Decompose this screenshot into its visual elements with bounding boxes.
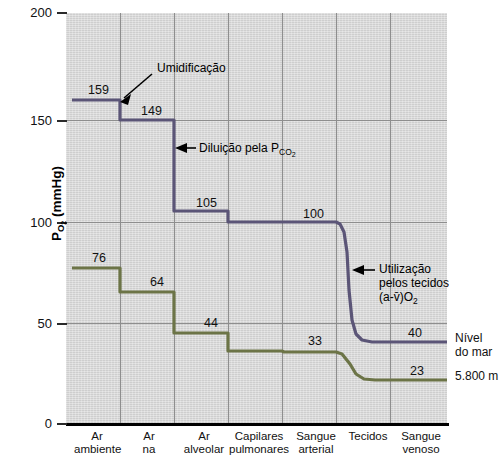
xcat-ar-na: Ar na (129, 430, 169, 456)
xcat-sangue-venoso-l1: Sangue (401, 430, 441, 442)
series-caption-5800m: 5.800 m (455, 369, 498, 383)
annotation-utilizacao-sub: 2 (413, 296, 418, 306)
xcat-tecidos-l1: Tecidos (349, 430, 388, 442)
xcat-ar-alveolar-l2: alveolar (180, 443, 228, 456)
xcat-ar-na-l2: na (129, 443, 169, 456)
xcat-sangue-arterial: Sangue arterial (290, 430, 342, 456)
value-label-44: 44 (204, 316, 218, 330)
xcat-sangue-venoso: Sangue venoso (395, 430, 447, 456)
annotation-utilizacao-av: (a-v̄)O (379, 290, 413, 304)
annotation-diluicao-sub: CO2 (279, 147, 296, 157)
arrow-line-umidificacao (124, 74, 152, 98)
xcat-sangue-venoso-l2: venoso (395, 443, 447, 456)
series-layer (0, 0, 499, 468)
xcat-sangue-arterial-l1: Sangue (296, 430, 336, 442)
arrow-head-utilizacao (352, 265, 364, 275)
xcat-ar-alveolar-l1: Ar (198, 430, 210, 442)
po2-cascade-chart: 200 150 100 50 0 PO2 (mmHg) 159 149 105 … (0, 0, 499, 468)
annotation-diluicao: Diluição pela PCO2 (199, 141, 296, 157)
xcat-capilares-pulmonares: Capilares pulmonares (229, 430, 289, 456)
value-label-76: 76 (92, 251, 106, 265)
series-caption-5800m-l1: 5.800 m (455, 369, 498, 383)
value-label-23: 23 (410, 364, 424, 378)
xcat-ar-ambiente: Ar ambiente (74, 430, 120, 456)
xcat-capilares-l2: pulmonares (229, 443, 289, 456)
xcat-ar-na-l1: Ar (143, 430, 155, 442)
arrow-head-umidificacao (120, 94, 131, 105)
annotation-utilizacao-line3: (a-v̄)O2 (379, 290, 418, 305)
value-label-105: 105 (196, 196, 217, 210)
value-label-33: 33 (308, 334, 322, 348)
series-caption-nivel-l1: Nível (455, 331, 482, 345)
arrow-head-diluicao (175, 143, 187, 153)
annotation-utilizacao-line2: pelos tecidos (379, 276, 449, 290)
value-label-159: 159 (88, 83, 109, 97)
xcat-ar-ambiente-l1: Ar (91, 430, 103, 442)
series-caption-nivel-do-mar: Nível do mar (455, 331, 492, 359)
value-label-40: 40 (408, 326, 422, 340)
series-caption-nivel-l2: do mar (455, 345, 492, 359)
annotation-diluicao-text: Diluição pela P (199, 141, 279, 155)
annotation-umidificacao: Umidificação (157, 61, 226, 75)
xcat-sangue-arterial-l2: arterial (290, 443, 342, 456)
value-label-100: 100 (303, 207, 324, 221)
xcat-capilares-l1: Capilares (235, 430, 284, 442)
annotation-utilizacao-line1: Utilização (379, 262, 431, 276)
value-label-64: 64 (150, 275, 164, 289)
xcat-ar-ambiente-l2: ambiente (74, 443, 120, 456)
xcat-tecidos: Tecidos (344, 430, 392, 443)
xcat-ar-alveolar: Ar alveolar (180, 430, 228, 456)
value-label-149: 149 (141, 104, 162, 118)
series-path-nivel-do-mar (72, 100, 447, 342)
